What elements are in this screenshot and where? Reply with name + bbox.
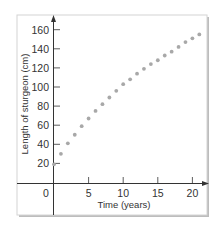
x-tick-label: 20 <box>187 187 199 199</box>
y-tick-label: 160 <box>31 24 49 36</box>
y-tick-label: 80 <box>37 100 49 112</box>
y-tick-label: 120 <box>31 62 49 74</box>
x-tick-label: 15 <box>152 187 164 199</box>
data-point <box>66 141 70 145</box>
y-tick-label: 100 <box>31 81 49 93</box>
data-point <box>191 36 195 40</box>
data-point <box>135 72 139 76</box>
data-point <box>114 89 118 93</box>
x-origin-label: 0 <box>43 187 49 199</box>
data-point <box>128 77 132 81</box>
data-point <box>197 33 201 37</box>
data-point <box>80 124 84 128</box>
y-tick-label: 40 <box>37 138 49 150</box>
data-point <box>94 109 98 113</box>
data-point <box>149 62 153 66</box>
x-tick-label: 10 <box>117 187 129 199</box>
y-axis-title: Length of sturgeon (cm) <box>19 54 30 155</box>
x-tick-label: 5 <box>86 187 92 199</box>
chart-figure: 20406080100120140160 5101520 0 Time (yea… <box>0 0 222 225</box>
data-point <box>184 40 188 44</box>
data-point <box>101 102 105 106</box>
data-point <box>163 54 167 58</box>
data-point <box>121 82 125 86</box>
data-point <box>156 58 160 62</box>
x-axis-title: Time (years) <box>98 199 151 210</box>
y-tick-label: 60 <box>37 119 49 131</box>
data-point <box>170 50 174 54</box>
data-point <box>107 96 111 100</box>
data-point <box>59 152 63 156</box>
y-tick-label: 20 <box>37 157 49 169</box>
data-point <box>142 67 146 71</box>
data-point <box>52 162 56 166</box>
data-point <box>87 117 91 121</box>
y-tick-label: 140 <box>31 43 49 55</box>
data-point <box>177 45 181 49</box>
data-point <box>73 133 77 137</box>
